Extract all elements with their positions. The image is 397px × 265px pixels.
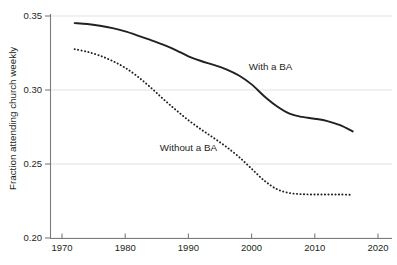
- chart-background: [0, 0, 397, 265]
- series-label-with-a-ba: With a BA: [249, 61, 293, 72]
- line-chart: 0.200.250.300.35 19701980199020002010202…: [0, 0, 397, 265]
- series-label-without-a-ba: Without a BA: [160, 142, 218, 153]
- y-tick-label-0.25: 0.25: [24, 158, 43, 169]
- y-tick-label-0.35: 0.35: [24, 10, 43, 21]
- x-tick-label-2020: 2020: [367, 242, 388, 253]
- y-axis-title: Fraction attending church weekly: [7, 47, 18, 190]
- x-tick-label-2010: 2010: [304, 242, 325, 253]
- x-tick-label-1980: 1980: [115, 242, 136, 253]
- y-tick-label-0.20: 0.20: [24, 232, 43, 243]
- x-tick-label-2000: 2000: [241, 242, 262, 253]
- y-tick-label-0.30: 0.30: [24, 84, 43, 95]
- x-tick-label-1970: 1970: [51, 242, 72, 253]
- chart-container: 0.200.250.300.35 19701980199020002010202…: [0, 0, 397, 265]
- x-tick-label-1990: 1990: [178, 242, 199, 253]
